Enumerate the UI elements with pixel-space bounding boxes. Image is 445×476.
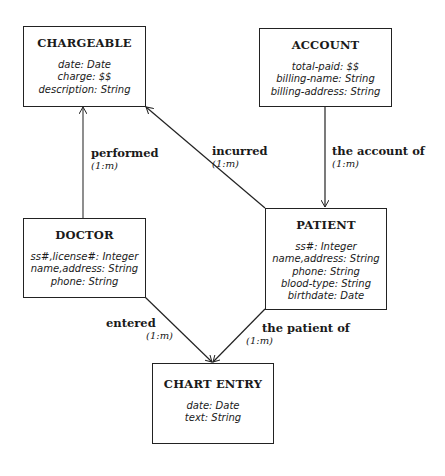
entity-attribute: name,address: String — [266, 253, 386, 265]
entity-doctor: DOCTOR ss#,license#: Integer name,addres… — [23, 218, 146, 298]
entity-attribute: birthdate: Date — [266, 290, 386, 302]
relationship-label: entered — [106, 317, 173, 330]
relationship-cardinality: (1:m) — [332, 158, 425, 170]
relationship-patient-of: the patient of (1:m) — [262, 322, 350, 347]
entity-chargeable: CHARGEABLE date: Date charge: $$ descrip… — [23, 26, 146, 107]
entity-attribute: billing-address: String — [260, 86, 391, 98]
entity-title: PATIENT — [266, 218, 386, 232]
relationship-cardinality: (1:m) — [212, 158, 268, 170]
relationship-cardinality: (1:m) — [106, 330, 173, 342]
entity-title: CHARGEABLE — [24, 36, 145, 50]
entity-title: DOCTOR — [24, 228, 145, 242]
entity-attribute: phone: String — [266, 266, 386, 278]
relationship-incurred: incurred (1:m) — [212, 145, 268, 170]
relationship-cardinality: (1:m) — [246, 335, 350, 347]
relationship-cardinality: (1:m) — [91, 160, 159, 172]
entity-attribute: date: Date — [153, 400, 273, 412]
entity-attribute: description: String — [24, 84, 145, 96]
entity-attribute: total-paid: $$ — [260, 61, 391, 73]
entity-attribute: text: String — [153, 412, 273, 424]
entity-attribute: date: Date — [24, 59, 145, 71]
relationship-label: the account of — [332, 145, 425, 158]
entity-attribute: charge: $$ — [24, 71, 145, 83]
entity-title: CHART ENTRY — [153, 377, 273, 391]
entity-attribute: name,address: String — [24, 263, 145, 275]
entity-attribute: ss#: Integer — [266, 241, 386, 253]
entity-account: ACCOUNT total-paid: $$ billing-name: Str… — [259, 28, 392, 107]
entity-patient: PATIENT ss#: Integer name,address: Strin… — [265, 208, 387, 310]
relationship-account-of: the account of (1:m) — [332, 145, 425, 170]
relationship-label: incurred — [212, 145, 268, 158]
entity-attribute: blood-type: String — [266, 278, 386, 290]
entity-attribute: billing-name: String — [260, 73, 391, 85]
relationship-label: the patient of — [262, 322, 350, 335]
relationship-performed: performed (1:m) — [91, 147, 159, 172]
entity-attribute: phone: String — [24, 276, 145, 288]
entity-chart-entry: CHART ENTRY date: Date text: String — [152, 363, 274, 444]
entity-attribute: ss#,license#: Integer — [24, 251, 145, 263]
relationship-label: performed — [91, 147, 159, 160]
relationship-entered: entered (1:m) — [106, 317, 173, 342]
entity-title: ACCOUNT — [260, 38, 391, 52]
